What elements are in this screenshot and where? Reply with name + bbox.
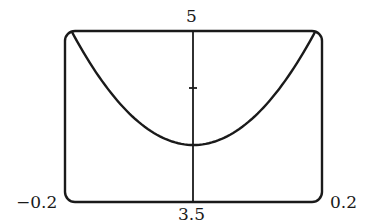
y-min-label: 3.5 [178, 206, 205, 223]
x-min-label: −0.2 [16, 194, 57, 211]
x-max-label: 0.2 [330, 194, 357, 211]
y-max-label: 5 [186, 8, 197, 25]
chart-plot [0, 0, 372, 224]
